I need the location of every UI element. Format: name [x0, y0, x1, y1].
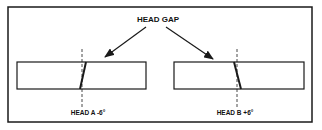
arrow-to-head-a: [105, 27, 146, 57]
outer-frame: [8, 7, 312, 122]
head-gap-label: HEAD GAP: [137, 15, 180, 24]
head-b: HEAD B +6°: [174, 49, 304, 116]
head-gap-diagram: HEAD GAP HEAD A -6° HEAD B +6°: [0, 0, 322, 130]
diagram-canvas: HEAD GAP HEAD A -6° HEAD B +6°: [0, 0, 322, 130]
head-a-label: HEAD A -6°: [71, 109, 106, 116]
arrow-to-head-b: [166, 27, 213, 59]
head-b-label: HEAD B +6°: [217, 109, 254, 116]
head-b-gap: [234, 62, 241, 89]
head-a-gap: [80, 62, 86, 89]
head-a: HEAD A -6°: [17, 49, 146, 116]
